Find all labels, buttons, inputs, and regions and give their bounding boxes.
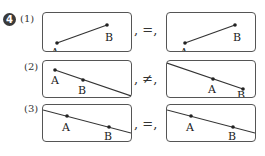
svg-text:A: A xyxy=(207,83,217,96)
figure-box-3-right: AB xyxy=(166,104,256,142)
svg-text:A: A xyxy=(179,46,189,51)
line-figure: AB xyxy=(167,105,255,141)
svg-text:A: A xyxy=(50,74,60,87)
svg-text:A: A xyxy=(185,121,195,134)
ray-figure: AB xyxy=(43,61,131,97)
point-b-label: B xyxy=(105,31,113,44)
svg-text:B: B xyxy=(104,130,112,141)
figure-box-3-left: AB xyxy=(42,104,132,142)
relation-symbol-3: , =, xyxy=(134,116,157,131)
line-figure: AB xyxy=(43,105,131,141)
figure-box-2-right: AB xyxy=(166,60,256,98)
figure-box-1-right: AB xyxy=(166,12,256,52)
point-a-label: A xyxy=(50,46,60,51)
svg-text:B: B xyxy=(78,84,86,97)
item-label-1: (1) xyxy=(20,13,34,24)
problem-number-badge: 4 xyxy=(3,13,16,26)
item-label-2: (2) xyxy=(24,61,38,72)
svg-text:A: A xyxy=(61,121,71,134)
svg-text:B: B xyxy=(228,130,236,141)
segment-ab-figure: A B xyxy=(43,13,131,51)
relation-symbol-2: , ≠, xyxy=(134,71,157,86)
ray-figure: AB xyxy=(167,61,255,97)
relation-symbol-1: , =, xyxy=(134,22,157,37)
svg-text:B: B xyxy=(237,89,245,97)
figure-box-1-left: A B xyxy=(42,12,132,52)
item-label-3: (3) xyxy=(24,103,38,114)
svg-text:B: B xyxy=(233,31,241,44)
segment-ab-figure: AB xyxy=(167,13,255,51)
figure-box-2-left: AB xyxy=(42,60,132,98)
